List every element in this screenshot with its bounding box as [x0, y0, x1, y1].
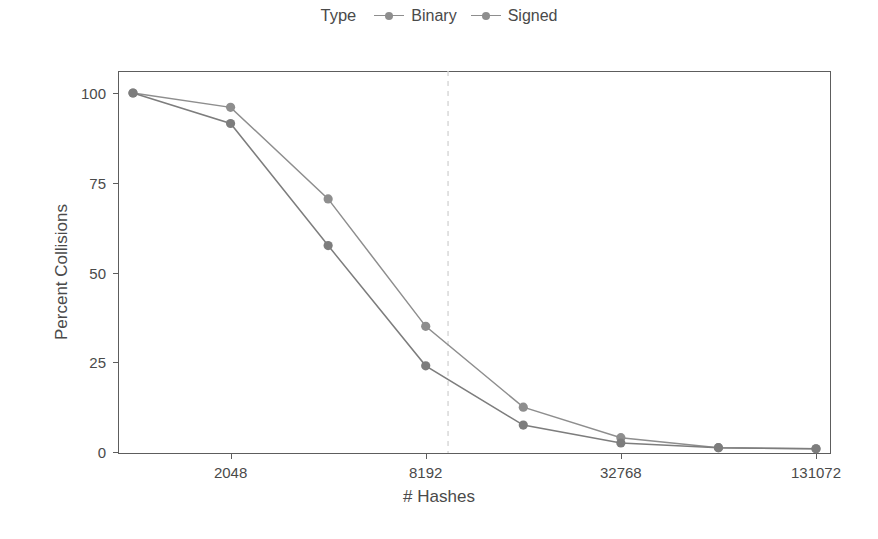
legend-entry-binary[interactable]: Binary	[374, 7, 456, 25]
series-line	[133, 93, 816, 449]
data-point	[324, 241, 333, 250]
legend-entry-signed[interactable]: Signed	[471, 7, 558, 25]
data-point	[519, 403, 528, 412]
x-axis-label: # Hashes	[0, 487, 878, 507]
y-tick-mark	[113, 362, 118, 363]
data-point	[421, 322, 430, 331]
x-tick-mark	[231, 454, 232, 459]
x-tick-mark	[426, 454, 427, 459]
data-point	[714, 443, 723, 452]
x-tick-label: 131072	[771, 464, 861, 481]
x-tick-label: 32768	[576, 464, 666, 481]
x-tick-mark	[816, 454, 817, 459]
x-tick-label: 2048	[186, 464, 276, 481]
chart-legend: Type Binary Signed	[0, 6, 878, 25]
series-signed	[128, 88, 820, 453]
y-tick-mark	[113, 273, 118, 274]
collisions-line-chart: Type Binary Signed 0255075100 2048819232…	[0, 0, 878, 539]
legend-label-signed: Signed	[508, 7, 558, 25]
y-tick-label: 0	[60, 444, 106, 461]
data-point	[226, 103, 235, 112]
data-point	[128, 88, 137, 97]
x-tick-label: 8192	[381, 464, 471, 481]
plot-area	[118, 71, 831, 454]
y-tick-mark	[113, 183, 118, 184]
x-tick-mark	[621, 454, 622, 459]
data-point	[324, 194, 333, 203]
y-axis-label: Percent Collisions	[52, 147, 72, 397]
series-binary	[128, 88, 820, 453]
data-point	[519, 420, 528, 429]
data-point	[421, 361, 430, 370]
legend-key-icon	[374, 9, 404, 23]
legend-key-icon	[471, 9, 501, 23]
data-point	[616, 438, 625, 447]
legend-label-binary: Binary	[411, 7, 456, 25]
y-tick-mark	[113, 93, 118, 94]
data-point	[811, 444, 820, 453]
y-tick-label: 100	[60, 85, 106, 102]
legend-title: Type	[321, 6, 357, 25]
data-point	[226, 119, 235, 128]
series-layer	[128, 88, 820, 453]
y-tick-mark	[113, 452, 118, 453]
